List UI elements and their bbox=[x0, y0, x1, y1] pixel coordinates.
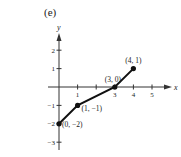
y-tick-label: −3 bbox=[48, 139, 56, 147]
x-axis-label: x bbox=[173, 83, 178, 92]
data-point-label: (3, 0) bbox=[105, 75, 122, 84]
series bbox=[56, 66, 136, 126]
x-axis-arrow-icon bbox=[164, 85, 172, 90]
chart-svg: (e) xy 134521−1−2−3 (0, −2)(1, −1)(3, 0)… bbox=[0, 0, 181, 157]
x-tick-label: 4 bbox=[132, 91, 136, 99]
data-point bbox=[131, 66, 136, 71]
y-axis-label: y bbox=[56, 23, 61, 32]
x-tick-label: 3 bbox=[113, 91, 117, 99]
panel-label: (e) bbox=[44, 6, 57, 19]
data-point bbox=[56, 121, 61, 126]
y-tick-label: 1 bbox=[52, 65, 56, 73]
data-point bbox=[112, 84, 117, 89]
x-tick-label: 1 bbox=[76, 91, 80, 99]
x-tick-label: 5 bbox=[150, 91, 154, 99]
point-labels: (0, −2)(1, −1)(3, 0)(4, 1) bbox=[62, 56, 142, 129]
y-tick-label: −2 bbox=[48, 120, 56, 128]
data-point-label: (0, −2) bbox=[62, 120, 83, 129]
data-point-label: (4, 1) bbox=[125, 56, 142, 65]
y-tick-label: −1 bbox=[48, 102, 56, 110]
data-point bbox=[75, 103, 80, 108]
series-line bbox=[59, 69, 133, 124]
y-axis-arrow-icon bbox=[57, 33, 62, 41]
y-tick-label: 2 bbox=[52, 47, 56, 55]
data-point-label: (1, −1) bbox=[82, 104, 103, 113]
